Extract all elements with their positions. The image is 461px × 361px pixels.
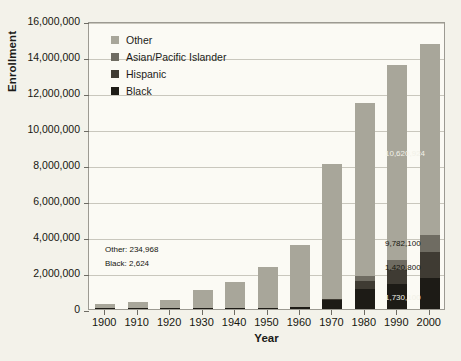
y-axis-tick-label: 16,000,000 — [0, 15, 80, 27]
bar-1960 — [290, 245, 310, 310]
bar-segment — [420, 44, 440, 235]
x-axis-tick — [364, 310, 365, 315]
legend-swatch-other — [111, 36, 119, 44]
bar-1950 — [258, 267, 278, 309]
y-axis-tick-label: 10,000,000 — [0, 123, 80, 135]
x-axis-tick — [169, 310, 170, 315]
bar-segment — [160, 300, 180, 308]
bar-2000 — [420, 44, 440, 309]
legend-label-hispanic: Hispanic — [126, 68, 166, 80]
x-axis-tick — [299, 310, 300, 315]
bar-1970 — [322, 164, 342, 309]
bar-segment — [258, 308, 278, 309]
annotation-asian-2000: 9,782,100 — [385, 239, 421, 249]
x-axis-tick — [331, 310, 332, 315]
bar-1900 — [95, 304, 115, 309]
x-axis-tick — [396, 310, 397, 315]
bar-segment — [128, 308, 148, 309]
bar-1930 — [193, 290, 213, 309]
y-axis-tick-label: 4,000,000 — [0, 231, 80, 243]
bar-segment — [322, 300, 342, 309]
bar-segment — [387, 65, 407, 259]
bar-segment — [193, 308, 213, 309]
x-axis-tick — [429, 310, 430, 315]
y-axis-tick-label: 0 — [0, 303, 80, 315]
legend-label-black: Black — [126, 85, 152, 97]
y-axis-title: Enrollment — [6, 0, 18, 92]
legend-swatch-asian-pacific-islander — [111, 53, 119, 61]
bar-segment — [225, 282, 245, 308]
plot-area: Other Asian/Pacific Islander Hispanic Bl… — [88, 22, 445, 310]
y-axis-tick-label: 6,000,000 — [0, 195, 80, 207]
legend-item-other: Other — [111, 31, 226, 48]
x-axis-tick — [202, 310, 203, 315]
bar-segment — [355, 289, 375, 309]
y-axis-tick — [84, 311, 89, 312]
annotation-hispanic-2000: 1,420,800 — [385, 263, 421, 273]
bar-segment — [193, 290, 213, 308]
bar-segment — [258, 267, 278, 308]
x-axis-tick — [267, 310, 268, 315]
legend-label-asian-pacific-islander: Asian/Pacific Islander — [126, 51, 226, 63]
x-axis-tick-label-2000: 2000 — [406, 316, 452, 328]
bar-segment — [420, 252, 440, 278]
legend-item-asian-pacific-islander: Asian/Pacific Islander — [111, 48, 226, 65]
y-axis-tick-label: 12,000,000 — [0, 87, 80, 99]
bar-segment — [225, 308, 245, 309]
bar-1920 — [160, 300, 180, 309]
annotation-black-2000: 1,730,100 — [385, 293, 421, 303]
bar-segment — [160, 308, 180, 309]
annotation-other-2000: 10,620,924 — [385, 149, 425, 159]
bar-segment — [355, 103, 375, 276]
y-axis-tick-label: 2,000,000 — [0, 267, 80, 279]
chart-figure: Enrollment 02,000,0004,000,0006,000,0008… — [0, 0, 461, 361]
bar-segment — [355, 281, 375, 289]
legend-label-other: Other — [126, 34, 152, 46]
bar-segment — [420, 278, 440, 309]
x-axis-title: Year — [88, 332, 445, 344]
bar-segment — [322, 164, 342, 299]
bar-segment — [95, 308, 115, 309]
bar-segment — [290, 307, 310, 309]
annotation-black-1900: Black: 2,624 — [105, 259, 149, 269]
chart-legend: Other Asian/Pacific Islander Hispanic Bl… — [111, 31, 226, 99]
bar-segment — [420, 235, 440, 253]
bar-1940 — [225, 282, 245, 309]
y-axis-tick-label: 8,000,000 — [0, 159, 80, 171]
bar-1910 — [128, 302, 148, 309]
legend-swatch-hispanic — [111, 70, 119, 78]
x-axis-tick — [104, 310, 105, 315]
bar-1980 — [355, 103, 375, 309]
y-axis-tick-label: 14,000,000 — [0, 51, 80, 63]
x-axis-tick — [137, 310, 138, 315]
annotation-other-1900: Other: 234,968 — [105, 245, 158, 255]
legend-item-black: Black — [111, 82, 226, 99]
bar-segment — [290, 245, 310, 307]
legend-swatch-black — [111, 87, 119, 95]
legend-item-hispanic: Hispanic — [111, 65, 226, 82]
x-axis-tick — [234, 310, 235, 315]
